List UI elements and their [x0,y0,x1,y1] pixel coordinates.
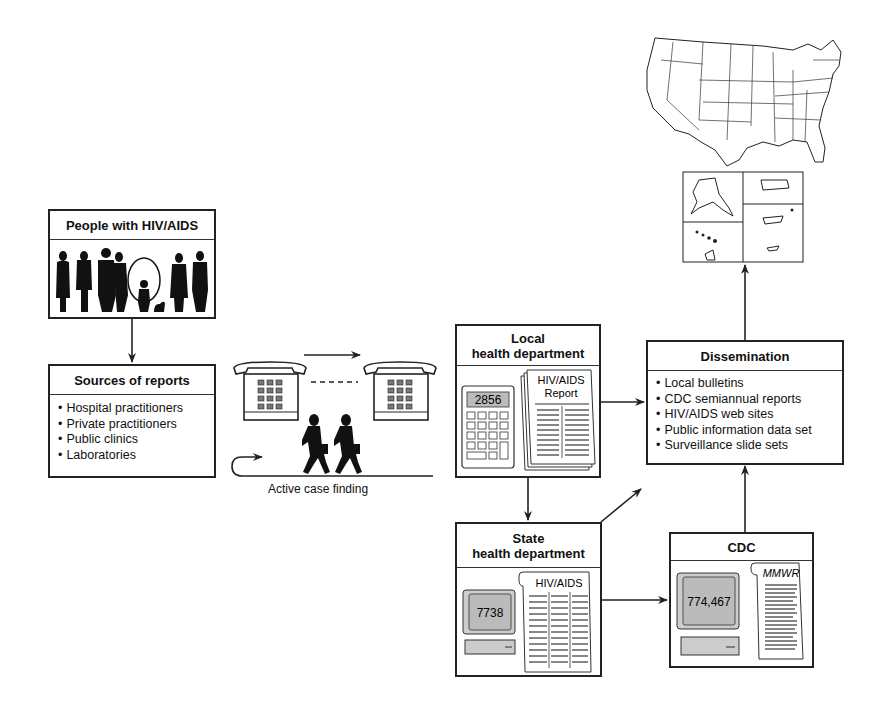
svg-text:HIV/AIDS: HIV/AIDS [537,374,584,386]
sources-list: Hospital practitioners Private practitio… [50,395,214,463]
list-item: Hospital practitioners [58,401,214,417]
list-item: Private practitioners [58,417,214,433]
list-item: Public clinics [58,432,214,448]
dissemination-box-title: Dissemination [648,342,842,371]
walking-people-icon [300,412,370,476]
calculator-and-report-icon: 2856 HIV/AIDS Report [457,366,599,478]
sources-of-reports-box: Sources of reports Hospital practitioner… [48,364,216,478]
sources-box-title: Sources of reports [50,366,214,395]
list-item: HIV/AIDS web sites [656,407,842,423]
list-item: Local bulletins [656,376,842,392]
computer-display: 774,467 [687,595,731,609]
local-health-department-box: Local health department 2856 HIV/AIDS Re… [455,324,601,478]
computer-and-report-icon: 7738 HIV/AIDS [457,568,600,676]
local-box-title: Local health department [457,326,599,366]
cdc-box-title: CDC [671,534,812,561]
telephone-icon [362,360,440,422]
state-health-department-box: State health department 7738 HIV/AIDS [455,522,602,677]
svg-text:MMWR: MMWR [763,567,800,579]
computer-and-mmwr-icon: 774,467 MMWR [671,561,812,667]
svg-text:Report: Report [544,387,577,399]
list-item: Surveillance slide sets [656,438,842,454]
people-with-hiv-box: People with HIV/AIDS [48,209,216,319]
list-item: Public information data set [656,423,842,439]
svg-text:HIV/AIDS: HIV/AIDS [535,577,582,589]
people-silhouettes-icon [50,240,214,318]
list-item: CDC semiannual reports [656,392,842,408]
telephone-icon [232,360,310,422]
calculator-display: 2856 [475,393,502,407]
cdc-box: CDC 774,467 MMWR [669,532,814,668]
state-box-title: State health department [457,524,600,568]
people-box-title: People with HIV/AIDS [50,211,214,240]
dissemination-box: Dissemination Local bulletins CDC semian… [646,340,844,465]
active-case-finding-label: Active case finding [268,482,368,496]
list-item: Laboratories [58,448,214,464]
dissemination-list: Local bulletins CDC semiannual reports H… [648,371,842,454]
us-map-icon [643,30,843,266]
computer-display: 7738 [477,606,504,620]
